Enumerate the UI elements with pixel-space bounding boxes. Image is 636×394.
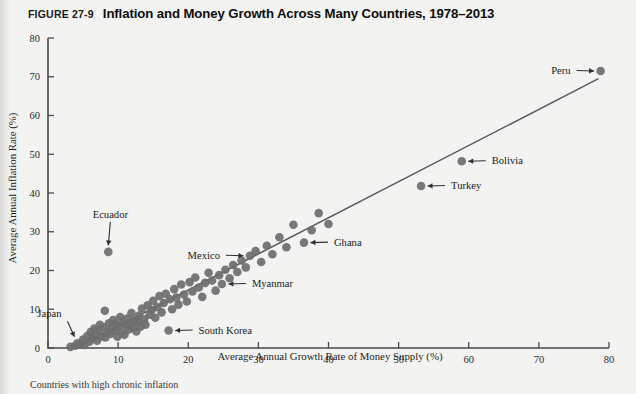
data-point [225, 274, 234, 283]
annotation-arrowhead [175, 328, 180, 333]
data-point [141, 320, 150, 329]
data-point [183, 297, 192, 306]
data-point [241, 263, 250, 272]
annotation-label: Ecuador [93, 209, 129, 220]
data-point [596, 67, 605, 76]
data-point [104, 248, 113, 257]
data-point [177, 280, 186, 289]
data-point [282, 243, 291, 252]
y-tick-label: 20 [30, 265, 41, 276]
x-tick-label: 70 [534, 354, 545, 365]
y-tick-label: 80 [30, 33, 41, 44]
annotation-arrowhead [468, 158, 473, 163]
data-point [221, 265, 230, 274]
data-point [198, 293, 207, 302]
y-tick-label: 40 [30, 188, 41, 199]
annotation-label: Japan [37, 308, 62, 319]
x-tick-label: 0 [45, 354, 50, 365]
x-tick-label: 80 [604, 354, 615, 365]
data-point [164, 326, 173, 335]
axes-group [48, 38, 609, 348]
data-point [127, 309, 136, 318]
figure-caption: Countries with high chronic inflation [30, 379, 630, 393]
data-point [307, 226, 316, 235]
annotation-arrowhead [428, 183, 433, 188]
annotation-label: Myanmar [252, 278, 294, 289]
x-tick-label: 10 [113, 354, 124, 365]
data-point [101, 307, 110, 316]
data-point [262, 241, 271, 250]
annotation-arrowhead [106, 240, 111, 245]
annotation-label: Turkey [451, 180, 482, 191]
chart-plot-area: 0102030405060708001020304050607080 Japan… [0, 28, 636, 368]
data-point [208, 276, 217, 285]
data-point [314, 209, 323, 218]
figure-number: FIGURE 27-9 [28, 8, 94, 20]
figure-title: Inflation and Money Growth Across Many C… [103, 6, 495, 21]
data-point [324, 220, 333, 229]
scatter-chart: 0102030405060708001020304050607080 Japan… [0, 28, 636, 368]
data-point [275, 233, 284, 242]
annotation-label: Bolivia [492, 155, 523, 166]
y-tick-label: 0 [35, 343, 40, 354]
y-axis-title: Average Annual Inflation Rate (%) [6, 112, 19, 263]
annotation-label: Mexico [188, 250, 220, 261]
x-tick-label: 60 [464, 354, 475, 365]
annotation-label: Ghana [334, 237, 362, 248]
data-point [289, 220, 298, 229]
figure-container: FIGURE 27-9 Inflation and Money Growth A… [0, 0, 636, 394]
data-point [417, 182, 426, 191]
annotation-label: South Korea [199, 325, 253, 336]
data-points-group [66, 67, 605, 352]
data-point [191, 273, 200, 282]
data-point [211, 286, 220, 295]
y-tick-label: 50 [30, 149, 41, 160]
data-point [251, 247, 260, 256]
data-point [174, 300, 183, 309]
figure-title-bar: FIGURE 27-9 Inflation and Money Growth A… [28, 6, 628, 28]
axis-spines [48, 38, 609, 348]
data-point [233, 268, 242, 277]
annotation-arrowhead [589, 68, 594, 73]
data-point [457, 157, 466, 166]
data-point [204, 269, 213, 278]
data-point [257, 258, 266, 267]
y-tick-label: 30 [30, 226, 41, 237]
y-tick-label: 60 [30, 110, 41, 121]
data-point [170, 285, 179, 294]
y-tick-label: 70 [30, 71, 41, 82]
annotation-arrowhead [310, 240, 315, 245]
data-point [157, 308, 166, 317]
data-point [300, 238, 309, 247]
data-point [268, 250, 277, 259]
x-axis-title: Average Annual Growth Rate of Money Supp… [218, 350, 443, 363]
annotation-label: Peru [551, 65, 571, 76]
x-tick-label: 20 [183, 354, 194, 365]
annotations-group: JapanEcuadorSouth KoreaMyanmarMexicoGhan… [37, 65, 594, 337]
data-point [218, 280, 227, 289]
